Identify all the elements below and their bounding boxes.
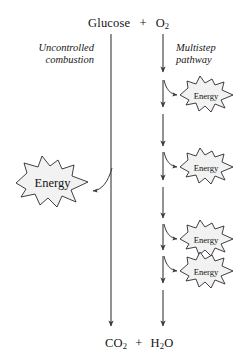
right-energy-burst-label-4: Energy [194, 267, 219, 277]
left-energy-burst: Energy [16, 156, 88, 207]
right-energy-burst-2: Energy [180, 148, 233, 184]
right-energy-burst-label-1: Energy [194, 91, 219, 101]
right-energy-burst-4: Energy [180, 252, 233, 288]
left-energy-burst-label: Energy [35, 176, 72, 190]
diagram-canvas: Glucose+O2 Uncontrolled combustion Multi… [0, 0, 241, 361]
right-energy-branch-arrow-4 [164, 256, 177, 271]
left-pathway-energy-branch-arrow [93, 168, 112, 191]
right-energy-branch-arrow-1 [164, 80, 177, 95]
right-energy-burst-label-3: Energy [194, 235, 219, 245]
right-energy-burst-label-2: Energy [194, 163, 219, 173]
right-energy-burst-1: Energy [180, 76, 233, 112]
diagram-graphics: Energy Energy Energy Energy [0, 0, 241, 361]
right-energy-burst-3: Energy [180, 220, 233, 256]
right-energy-branch-arrow-3 [164, 224, 177, 239]
right-energy-branch-arrow-2 [164, 152, 177, 167]
